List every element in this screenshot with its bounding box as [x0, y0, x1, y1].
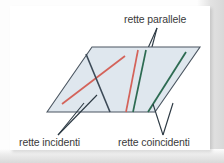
- label-rette-incidenti: rette incidenti: [19, 137, 80, 148]
- leader-coincident-2: [163, 103, 173, 135]
- label-rette-coincidenti: rette coincidenti: [118, 137, 190, 148]
- leader-coincident-1: [153, 104, 163, 135]
- figure-screenshot: rette parallele rette incidenti rette co…: [0, 0, 224, 163]
- label-rette-parallele: rette parallele: [124, 14, 186, 25]
